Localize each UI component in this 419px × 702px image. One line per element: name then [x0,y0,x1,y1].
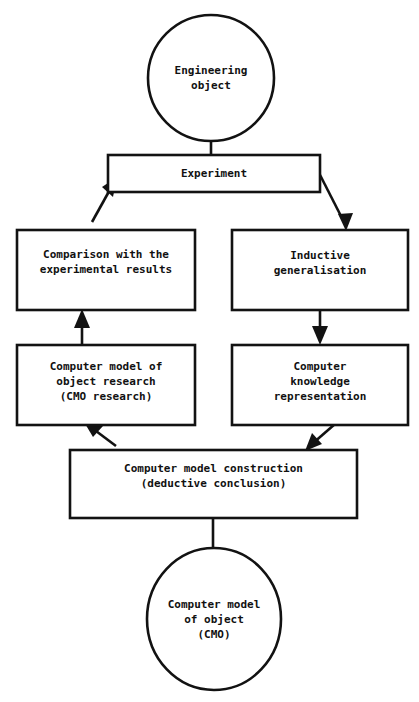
node-computer-model-of-object-shape [147,548,281,690]
flowchart-canvas [0,0,419,702]
node-cmo-research-shape [17,345,195,425]
node-comparison-shape [17,230,195,310]
edge-inductive-generalisation-to-knowledge-representation [312,311,328,345]
node-experiment-shape [108,155,320,192]
node-engineering-object-shape [148,15,274,141]
edge-cmo-research-to-comparison [74,309,90,344]
edge-knowledge-representation-to-model-construction [305,424,335,451]
flowchart-diagram: Engineering object Experiment Comparison… [0,0,419,702]
node-model-construction-shape [70,450,357,518]
edge-experiment-to-inductive-generalisation [318,171,353,231]
node-inductive-generalisation-shape [232,230,408,310]
node-knowledge-representation-shape [232,345,408,425]
